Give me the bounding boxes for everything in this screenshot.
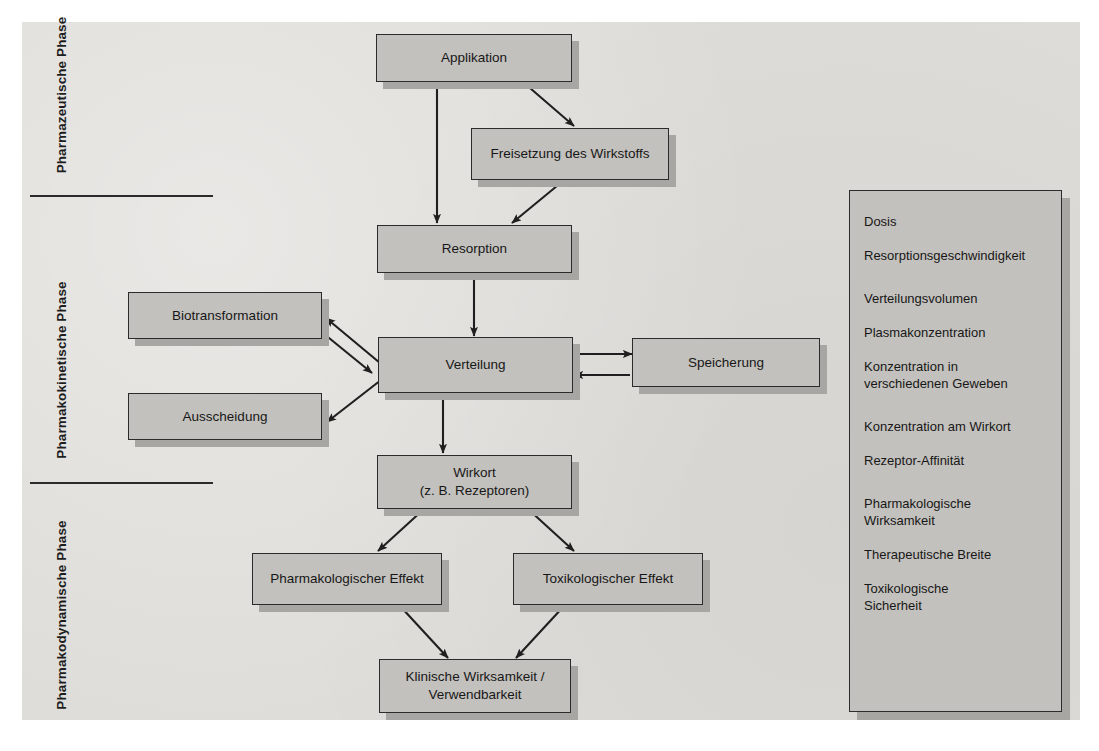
parameter-group-distribution: Verteilungsvolumen Plasmakonzentration K… (864, 290, 1061, 392)
node-label: Pharmakologischer Effekt (270, 570, 424, 588)
node-label: Verteilung (445, 356, 505, 374)
node-label: Ausscheidung (183, 408, 268, 426)
phase-divider-bottom (30, 482, 213, 484)
parameter-item-konzentration-wirkort: Konzentration am Wirkort (864, 418, 1054, 435)
parameter-panel: Dosis Resorptionsgeschwindigkeit Verteil… (849, 190, 1062, 712)
node-verteilung[interactable]: Verteilung (378, 337, 573, 393)
node-label-line2: Verwendbarkeit (428, 686, 521, 704)
parameter-item-rezeptor-affinitaet: Rezeptor-Affinität (864, 452, 1054, 469)
phase-label-line2: Phase (54, 520, 69, 560)
parameter-item-pharmakologische-wirksamkeit: Pharmakologische Wirksamkeit (864, 495, 1054, 529)
node-toxikologischer-effekt[interactable]: Toxikologischer Effekt (513, 553, 703, 605)
phase-label-pharmakodynamische: Pharmakodynamische Phase (52, 520, 72, 710)
phase-label-line2: Phase (54, 17, 69, 57)
parameter-group-site-of-action: Konzentration am Wirkort Rezeptor-Affini… (864, 418, 1061, 469)
parameter-item-therapeutische-breite: Therapeutische Breite (864, 546, 1054, 563)
node-ausscheidung[interactable]: Ausscheidung (128, 393, 322, 440)
node-label-line2: (z. B. Rezeptoren) (420, 482, 530, 500)
phase-label-line1: Pharmakokinetische (54, 326, 69, 459)
node-biotransformation[interactable]: Biotransformation (128, 292, 322, 339)
node-speicherung[interactable]: Speicherung (632, 338, 820, 387)
parameter-item-toxikologische-sicherheit: Toxikologische Sicherheit (864, 580, 1054, 614)
phase-label-line2: Phase (54, 281, 69, 321)
parameter-item-verteilungsvolumen: Verteilungsvolumen (864, 290, 1054, 307)
node-label: Biotransformation (172, 307, 278, 325)
node-freisetzung-des-wirkstoffs[interactable]: Freisetzung des Wirkstoffs (471, 128, 669, 180)
node-label-line1: Klinische Wirksamkeit / (406, 668, 545, 686)
node-wirkort[interactable]: Wirkort (z. B. Rezeptoren) (377, 455, 572, 509)
node-pharmakologischer-effekt[interactable]: Pharmakologischer Effekt (252, 553, 442, 605)
parameter-group-effect: Pharmakologische Wirksamkeit Therapeutis… (864, 495, 1061, 614)
node-label: Freisetzung des Wirkstoffs (491, 145, 650, 163)
phase-label-line1: Pharmakodynamische (54, 565, 69, 710)
phase-label-pharmakokinetische: Pharmakokinetische Phase (52, 280, 72, 460)
parameter-item-resorptionsgeschwindigkeit: Resorptionsgeschwindigkeit (864, 247, 1054, 264)
node-label-line1: Wirkort (453, 464, 496, 482)
node-label: Applikation (441, 49, 507, 67)
node-label: Speicherung (688, 354, 764, 372)
node-label: Resorption (442, 240, 507, 258)
parameter-group-pharmaceutical: Dosis Resorptionsgeschwindigkeit (864, 213, 1061, 264)
phase-label-line1: Pharmazeutische (54, 61, 69, 174)
phase-divider-top (30, 195, 213, 197)
phase-label-pharmazeutische: Pharmazeutische Phase (52, 15, 72, 175)
parameter-item-konzentration-gewebe: Konzentration in verschiedenen Geweben (864, 358, 1054, 392)
node-applikation[interactable]: Applikation (376, 34, 572, 82)
node-label: Toxikologischer Effekt (543, 570, 673, 588)
parameter-item-plasmakonzentration: Plasmakonzentration (864, 324, 1054, 341)
node-klinische-wirksamkeit[interactable]: Klinische Wirksamkeit / Verwendbarkeit (379, 659, 571, 713)
node-resorption[interactable]: Resorption (377, 225, 572, 273)
parameter-item-dosis: Dosis (864, 213, 1054, 230)
diagram-canvas: Pharmazeutische Phase Pharmakokinetische… (0, 0, 1099, 751)
